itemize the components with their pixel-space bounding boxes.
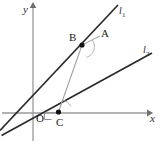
point-label-a: A [101,28,109,39]
line-l2 [2,53,153,136]
line-label-l2: l2 [143,45,150,58]
y-axis-label: y [23,4,28,15]
point-label-c: C [56,117,63,128]
origin-label: O [36,113,44,124]
figure-canvas [0,0,164,144]
point-label-b: B [69,32,76,43]
geometry-figure: l1 l2 A B C O x y [0,0,164,144]
line-label-l1-subscript: 1 [122,11,126,19]
lines-group [0,5,152,136]
line-label-l2-subscript: 2 [146,50,150,58]
right-angle-mark-hypotenuse [45,113,58,114]
line-label-l1: l1 [119,6,126,19]
point-b-marker [79,42,84,47]
right-angle-mark-at-c [45,113,52,120]
point-c-marker [56,109,61,114]
axes-group [2,2,153,141]
x-axis-label: x [150,113,155,124]
y-axis-arrowhead [30,2,37,8]
